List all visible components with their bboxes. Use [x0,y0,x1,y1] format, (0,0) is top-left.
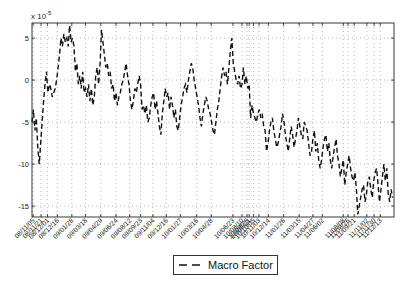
line-chart: 50-5-10-15 08/11/0508/11/2108/12/0108/12… [0,0,408,281]
series-line [32,26,393,215]
y-tick-label: -5 [22,118,29,127]
y-multiplier-label: x 10-5 [31,10,52,21]
y-tick-label: 5 [25,34,29,43]
legend: Macro Factor [173,255,278,275]
legend-label-macro-factor: Macro Factor [208,259,273,271]
y-tick-label: 0 [25,76,29,85]
y-tick-label: -15 [18,202,29,211]
plot-area-frame [32,23,394,217]
dashed-line-legend-icon [178,260,206,270]
y-tick-label: -10 [18,160,29,169]
x-axis-ticks: 08/11/0508/11/2108/12/0108/12/1609/01/28… [13,23,383,240]
grid-lines [32,23,394,217]
data-series-macro-factor [32,26,393,215]
